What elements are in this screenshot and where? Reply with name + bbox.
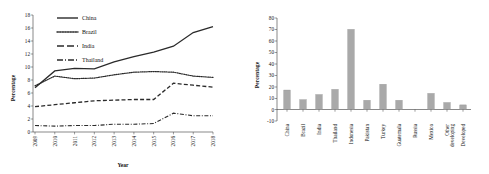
bar-category-label: Pakistan bbox=[364, 124, 370, 142]
bar bbox=[348, 29, 354, 109]
bar-chart-svg: Percentage 80 70 60 50 40 30 20 10 0 -10 bbox=[245, 0, 489, 174]
series-line-thailand bbox=[35, 113, 213, 126]
series-line-india bbox=[35, 83, 213, 106]
left-xtick: 2012 bbox=[91, 136, 97, 147]
left-xtick: 2015 bbox=[151, 136, 157, 147]
bar bbox=[460, 105, 466, 110]
left-ytick: 6 bbox=[27, 90, 30, 96]
bar bbox=[284, 90, 290, 109]
series-line-china bbox=[35, 27, 213, 88]
right-y-ticks: 80 70 60 50 40 30 20 10 0 -10 bbox=[267, 15, 274, 125]
bar-category-label: Guatemala bbox=[396, 123, 402, 146]
left-x-tickmarks bbox=[35, 132, 213, 134]
bar-category-label: Thailand bbox=[332, 124, 338, 143]
left-ytick: 2 bbox=[27, 116, 30, 122]
right-ytick: 50 bbox=[269, 49, 275, 55]
series-line-brazil bbox=[35, 72, 213, 86]
left-xtick: 2018 bbox=[210, 136, 216, 147]
bar bbox=[316, 95, 322, 110]
left-xtick: 2016 bbox=[170, 136, 176, 147]
left-ytick: 14 bbox=[25, 38, 31, 44]
line-chart-svg: Percentage 18 16 14 12 10 8 6 4 2 0 bbox=[0, 0, 245, 174]
left-ytick: 8 bbox=[27, 77, 30, 83]
left-ytick: 18 bbox=[25, 12, 31, 18]
bar-series bbox=[284, 29, 466, 111]
left-ytick: 0 bbox=[27, 129, 30, 135]
legend-label-brazil: Brazil bbox=[82, 29, 97, 35]
bar-category-label: Mexico bbox=[428, 124, 434, 140]
left-ytick: 12 bbox=[25, 51, 31, 57]
bar bbox=[428, 93, 434, 109]
line-chart-panel: Percentage 18 16 14 12 10 8 6 4 2 0 bbox=[0, 0, 245, 174]
right-ytick: 0 bbox=[271, 107, 274, 113]
left-xtick: 2014 bbox=[131, 136, 137, 147]
bar bbox=[444, 103, 450, 110]
left-ytick: 10 bbox=[25, 64, 31, 70]
right-ytick: 40 bbox=[269, 61, 275, 67]
right-ytick: 10 bbox=[269, 95, 275, 101]
left-y-tickmarks bbox=[31, 15, 33, 132]
bar bbox=[364, 100, 370, 109]
left-x-axis-title: Year bbox=[117, 162, 129, 168]
left-xtick: 2010 bbox=[52, 136, 58, 147]
bar-category-label: Developed bbox=[460, 124, 466, 147]
bar-category-label: Russia bbox=[412, 123, 418, 138]
right-ytick: 30 bbox=[269, 72, 275, 78]
bar-category-label: China bbox=[284, 123, 290, 136]
right-y-tickmarks bbox=[275, 18, 277, 121]
left-xtick: 2009 bbox=[32, 136, 38, 147]
left-xtick: 2011 bbox=[72, 136, 78, 147]
left-x-ticks: 2009 2010 2011 2012 2013 2014 2015 2016 … bbox=[32, 136, 216, 147]
bar bbox=[396, 100, 402, 109]
bar-chart-panel: Percentage 80 70 60 50 40 30 20 10 0 -10 bbox=[245, 0, 489, 174]
legend-label-thailand: Thailand bbox=[82, 57, 103, 63]
bar-category-label: Turkey bbox=[380, 124, 386, 139]
right-ytick: 20 bbox=[269, 84, 275, 90]
left-y-axis-title: Percentage bbox=[10, 74, 16, 101]
legend-label-china: China bbox=[82, 15, 97, 21]
left-xtick: 2013 bbox=[111, 136, 117, 147]
bar-category-label: India bbox=[316, 123, 322, 134]
left-y-ticks: 18 16 14 12 10 8 6 4 2 0 bbox=[25, 12, 31, 135]
right-ytick: -10 bbox=[267, 118, 274, 124]
right-ytick: 60 bbox=[269, 38, 275, 44]
bar bbox=[300, 100, 306, 110]
two-panel-figure: Percentage 18 16 14 12 10 8 6 4 2 0 bbox=[0, 0, 489, 174]
right-y-axis-title: Percentage bbox=[254, 61, 260, 88]
left-chart-legend: China Brazil India Thailand bbox=[57, 15, 103, 63]
bar-category-label: Brazil bbox=[300, 123, 306, 136]
left-ytick: 4 bbox=[27, 103, 30, 109]
left-xtick: 2017 bbox=[190, 136, 196, 147]
bar-category-label: Indonesia bbox=[348, 123, 354, 144]
legend-label-india: India bbox=[82, 43, 95, 49]
right-ytick: 80 bbox=[269, 15, 275, 21]
bar-category-labels: ChinaBrazilIndiaThailandIndonesiaPakista… bbox=[284, 123, 466, 147]
left-ytick: 16 bbox=[25, 25, 31, 31]
bar bbox=[332, 89, 338, 109]
bar bbox=[380, 84, 386, 109]
right-ytick: 70 bbox=[269, 26, 275, 32]
bar-category-label: Otherdeveloping bbox=[444, 124, 455, 147]
